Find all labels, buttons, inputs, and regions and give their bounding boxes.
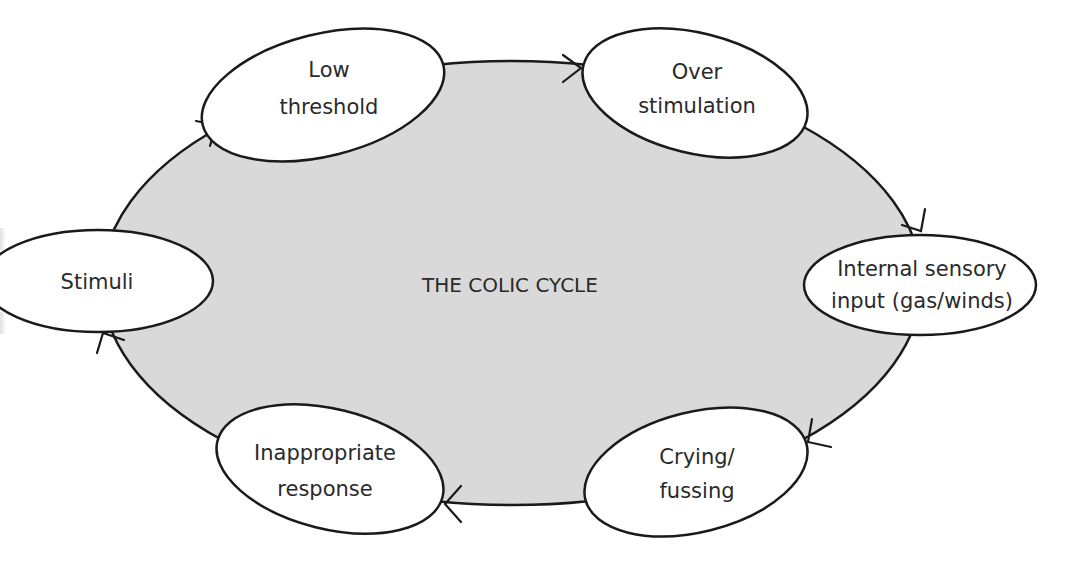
scan-edge-shadow: [0, 228, 6, 250]
node-label: fussing: [659, 479, 734, 503]
node-label: stimulation: [638, 94, 756, 118]
node-label: Stimuli: [61, 270, 134, 294]
node-label: input (gas/winds): [831, 289, 1013, 313]
node-label: Internal sensory: [837, 257, 1007, 281]
node-label: response: [277, 477, 372, 501]
diagram-svg: Low threshold Over stimulation Internal …: [0, 0, 1092, 564]
node-label: Low: [308, 58, 349, 82]
node-label: Crying/: [659, 445, 735, 469]
node-internal-sensory-input: Internal sensory input (gas/winds): [804, 235, 1036, 335]
node-label: Over: [672, 60, 723, 84]
node-label: threshold: [280, 95, 379, 119]
scan-edge-shadow: [0, 312, 6, 334]
diagram-title: THE COLIC CYCLE: [421, 273, 598, 297]
node-stimuli: Stimuli: [0, 230, 213, 332]
node-label: Inappropriate: [254, 441, 396, 465]
colic-cycle-diagram: Low threshold Over stimulation Internal …: [0, 0, 1092, 564]
